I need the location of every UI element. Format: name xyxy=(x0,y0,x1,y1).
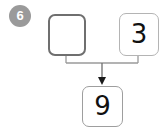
worksheet-problem-canvas: 6 3 9 xyxy=(0,0,167,129)
addend-box-known[interactable]: 3 xyxy=(119,13,159,56)
problem-number-badge: 6 xyxy=(9,5,31,27)
sum-box[interactable]: 9 xyxy=(82,86,123,127)
connector-arrowhead xyxy=(98,77,106,85)
addend-box-blank[interactable] xyxy=(48,14,86,56)
